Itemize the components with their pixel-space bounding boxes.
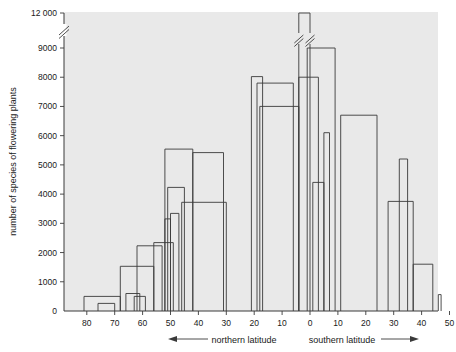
arrow-right-icon (410, 336, 419, 342)
arrow-left-icon (168, 336, 177, 342)
north-latitude-caption: northern latitude (211, 335, 276, 345)
y-tick-label: 6000 (38, 131, 57, 141)
bar (438, 295, 441, 311)
x-tick-label: 40 (194, 318, 204, 328)
y-tick-label: 12 000 (31, 8, 57, 18)
x-tick-label: 30 (222, 318, 232, 328)
x-tick-label: 10 (277, 318, 287, 328)
x-tick-label: 50 (166, 318, 176, 328)
x-tick-label: 70 (110, 318, 120, 328)
x-tick-label: 30 (389, 318, 399, 328)
y-tick-label: 7000 (38, 101, 57, 111)
south-latitude-caption: southern latitude (309, 335, 376, 345)
x-tick-label: 0 (308, 318, 313, 328)
x-tick-label: 60 (138, 318, 148, 328)
x-tick-label: 50 (445, 318, 455, 328)
x-tick-label: 20 (361, 318, 371, 328)
y-tick-label: 2000 (38, 248, 57, 258)
bar-outline (438, 295, 441, 311)
y-tick-label: 9000 (38, 43, 57, 53)
latitude-species-chart: 010002000300040005000600070008000900012 … (0, 0, 456, 352)
x-tick-label: 10 (333, 318, 343, 328)
y-tick-label: 0 (52, 306, 57, 316)
y-axis-title: number of species of flowering plants (8, 87, 18, 236)
x-tick-label: 80 (82, 318, 92, 328)
x-tick-label: 20 (249, 318, 259, 328)
y-tick-label: 8000 (38, 72, 57, 82)
y-tick-label: 3000 (38, 218, 57, 228)
y-tick-label: 1000 (38, 277, 57, 287)
x-tick-label: 40 (417, 318, 427, 328)
y-tick-label: 5000 (38, 160, 57, 170)
y-tick-label: 4000 (38, 189, 57, 199)
chart-figure: 010002000300040005000600070008000900012 … (0, 0, 456, 352)
